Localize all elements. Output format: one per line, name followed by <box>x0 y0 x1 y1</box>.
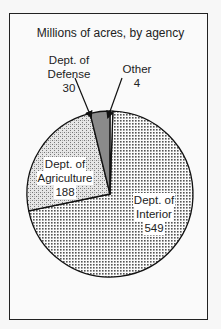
label-defense-line1: Dept. of <box>34 53 104 67</box>
label-other: Other 4 <box>112 62 162 90</box>
label-defense: Dept. of Defense 30 <box>34 53 104 95</box>
label-interior-line2: Interior <box>135 207 173 221</box>
label-agriculture-line1: Dept. of <box>44 157 86 171</box>
label-interior-line1: Dept. of <box>133 193 175 207</box>
label-agriculture-line2: Agriculture <box>37 171 94 185</box>
label-defense-line2: Defense <box>34 67 104 81</box>
label-agriculture: Dept. of Agriculture 188 <box>32 157 98 199</box>
label-interior: Dept. of Interior 549 <box>122 193 186 235</box>
label-agriculture-value: 188 <box>54 185 75 199</box>
label-interior-value: 549 <box>143 221 164 235</box>
label-other-line1: Other <box>112 62 162 76</box>
label-defense-value: 30 <box>34 81 104 95</box>
label-other-value: 4 <box>112 76 162 90</box>
